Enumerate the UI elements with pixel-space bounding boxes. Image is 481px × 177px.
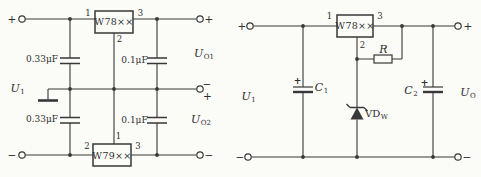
right-bottom-left-polarity: − [236, 152, 245, 163]
right-term-top-right [455, 23, 461, 29]
right-top-right-polarity: + [464, 21, 473, 32]
left-term-bottom-left [19, 152, 25, 158]
w79-pin3-label: 3 [135, 142, 140, 151]
right-term-bottom-left [245, 154, 251, 160]
c1-polarity-mark: + [294, 76, 302, 85]
c2-label: C2 [404, 85, 417, 98]
left-bottom-left-polarity: − [8, 150, 17, 161]
left-term-top-left [19, 16, 25, 22]
left-terminal-circles [19, 16, 203, 158]
cap-033uf-bottom-value: 0.33μF [26, 115, 58, 124]
left-term-top-right [197, 16, 203, 22]
right-bottom-right-polarity: − [463, 152, 472, 163]
output1-voltage-label: UO1 [194, 48, 214, 61]
left-top-right-polarity: + [205, 14, 214, 25]
w78-regulator-label: W78×× [94, 17, 133, 27]
left-cap-in-top-plates [60, 58, 80, 64]
w79-pin1-label: 1 [116, 132, 121, 141]
c2-polarity-mark: + [421, 78, 429, 87]
w78-pin3-label: 3 [138, 8, 143, 17]
left-term-bottom-right [197, 152, 203, 158]
zener-triangle [351, 108, 364, 120]
zener-diode-label: VDW [365, 108, 388, 120]
w79-regulator-label: W79×× [92, 151, 131, 161]
right-term-bottom-right [455, 154, 461, 160]
cap-01uf-top-value: 0.1μF [121, 55, 147, 64]
left-input-voltage-label: U1 [10, 83, 24, 96]
right-top-left-polarity: + [238, 21, 247, 32]
left-top-left-polarity: + [8, 14, 17, 25]
w78-pin2-label: 2 [117, 35, 122, 44]
output2-voltage-label: UO2 [191, 114, 211, 127]
w78r-pin3-label: 3 [377, 11, 382, 20]
left-cap-out-bottom-plates [147, 118, 167, 124]
resistor-body [374, 55, 392, 63]
right-term-top-left [247, 23, 253, 29]
cap-033uf-top-value: 0.33μF [26, 55, 58, 64]
w78r-pin2-label: 2 [360, 41, 365, 50]
c1-label: C1 [315, 82, 328, 95]
resistor-label: R [379, 43, 387, 54]
w78r-pin1-label: 1 [327, 11, 332, 20]
left-bottom-right-polarity: − [205, 150, 214, 161]
w79-pin2-label: 2 [84, 142, 89, 151]
left-circuit-wires [26, 11, 197, 166]
w78-pin1-label: 1 [85, 9, 90, 18]
schematic-page: + + W78×× 1 3 2 0.33μF 0.1μF UO1 U1 − + … [0, 0, 481, 177]
right-output-voltage-label: UO [460, 87, 476, 100]
mid-terminal-minus: − [203, 79, 212, 90]
right-input-voltage-label: U1 [241, 91, 255, 104]
cap-01uf-bottom-value: 0.1μF [121, 115, 147, 124]
mid-terminal-plus: + [203, 91, 212, 102]
left-cap-out-top-plates [147, 58, 167, 64]
w78r-regulator-label: W78×× [335, 21, 374, 31]
left-cap-in-bottom-plates [60, 118, 80, 124]
